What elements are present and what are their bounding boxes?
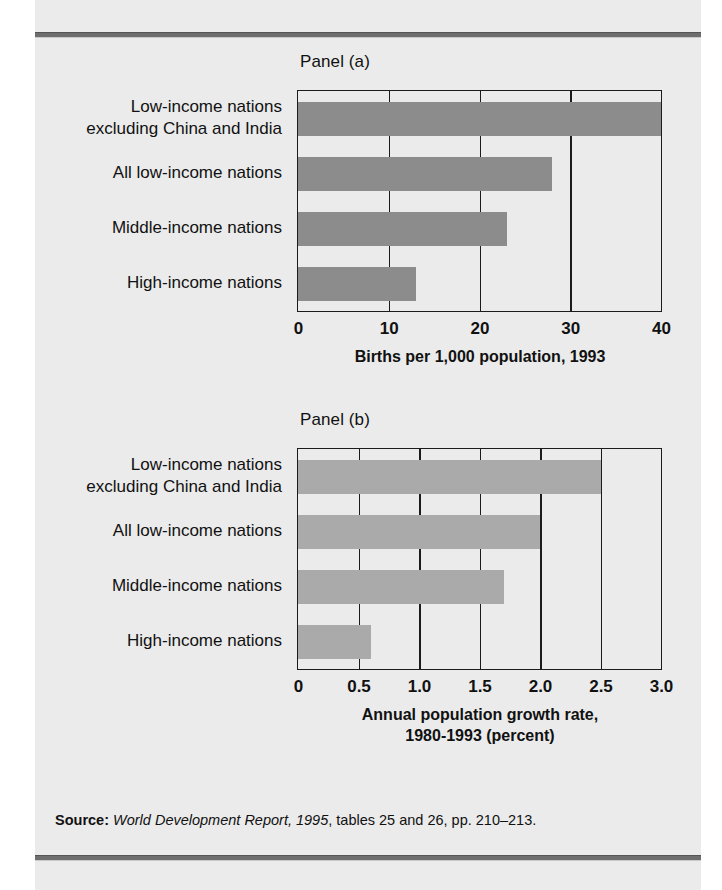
source-label: Source:	[55, 812, 109, 828]
panel-b-plot-area	[297, 448, 662, 670]
category-label: High-income nations	[32, 272, 282, 294]
source-rest: , tables 25 and 26, pp. 210–213.	[328, 812, 536, 828]
bar	[298, 460, 601, 494]
bar	[298, 102, 661, 136]
panel-b-category-labels: Low-income nations excluding China and I…	[35, 448, 290, 668]
x-tick-label: 30	[561, 319, 580, 339]
top-rule	[35, 32, 701, 38]
panel-b-chart: Low-income nations excluding China and I…	[35, 448, 675, 668]
bar	[298, 570, 504, 604]
bar	[298, 157, 552, 191]
panel-a-x-axis-ticks: 010203040	[297, 319, 663, 343]
bar	[298, 625, 371, 659]
x-tick-label: 0	[294, 319, 303, 339]
category-label: Low-income nations excluding China and I…	[32, 96, 282, 140]
bar	[298, 515, 540, 549]
x-tick-label: 1.0	[408, 677, 432, 697]
category-label: High-income nations	[32, 630, 282, 652]
panel-b-x-axis-title: Annual population growth rate, 1980-1993…	[297, 704, 663, 746]
x-tick-label: 1.5	[468, 677, 492, 697]
panel-b-caption: Panel (b)	[35, 410, 635, 430]
bar	[298, 267, 416, 301]
x-tick-label: 20	[471, 319, 490, 339]
x-tick-label: 0	[294, 677, 303, 697]
panel-a-chart: Low-income nations excluding China and I…	[35, 90, 675, 310]
panel-a-plot-area	[297, 90, 662, 312]
source-note: Source: World Development Report, 1995, …	[55, 812, 675, 828]
bar	[298, 212, 507, 246]
figure-panel: Panel (a) Low-income nations excluding C…	[35, 0, 701, 890]
x-tick-label: 3.0	[650, 677, 674, 697]
panel-a-x-axis-title: Births per 1,000 population, 1993	[297, 346, 663, 367]
panel-a-caption: Panel (a)	[35, 52, 635, 72]
x-tick-label: 40	[652, 319, 671, 339]
gridline	[601, 449, 603, 669]
x-tick-label: 0.5	[347, 677, 371, 697]
category-label: All low-income nations	[32, 162, 282, 184]
panel-a-category-labels: Low-income nations excluding China and I…	[35, 90, 290, 310]
category-label: Middle-income nations	[32, 575, 282, 597]
bottom-rule	[35, 855, 701, 861]
category-label: All low-income nations	[32, 520, 282, 542]
x-tick-label: 10	[380, 319, 399, 339]
category-label: Low-income nations excluding China and I…	[32, 454, 282, 498]
x-tick-label: 2.0	[529, 677, 553, 697]
x-tick-label: 2.5	[589, 677, 613, 697]
category-label: Middle-income nations	[32, 217, 282, 239]
panel-b-x-axis-ticks: 00.51.01.52.02.53.0	[297, 677, 663, 701]
source-title: World Development Report, 1995	[113, 812, 328, 828]
